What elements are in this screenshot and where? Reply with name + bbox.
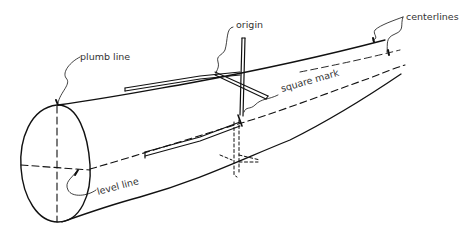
level-line-label: level line xyxy=(96,175,140,197)
plumb-line-label: plumb line xyxy=(80,51,130,62)
top-centerline xyxy=(300,50,400,72)
side-centerline xyxy=(90,65,405,169)
log-layout-diagram: plumb line origin square mark centerline… xyxy=(0,0,475,234)
side-batten xyxy=(145,115,242,158)
square-mark-leader xyxy=(244,95,278,112)
origin-label: origin xyxy=(236,19,263,30)
log-body xyxy=(58,40,401,222)
plumb-line-leader xyxy=(58,57,80,103)
centerlines-arrow-bottom-icon xyxy=(388,50,389,55)
centerlines-arrow-top-icon xyxy=(373,38,374,42)
centerlines-leader-top xyxy=(373,17,403,40)
origin-post xyxy=(240,38,245,116)
log-end-ellipse xyxy=(21,105,90,222)
square-mark-label: square mark xyxy=(280,67,341,94)
square-projection xyxy=(220,120,260,177)
centerlines-label: centerlines xyxy=(406,11,459,22)
level-line-arrow-icon xyxy=(75,170,78,175)
level-line-leader xyxy=(67,172,96,195)
origin-leader xyxy=(216,27,233,74)
top-batten xyxy=(125,72,240,91)
plumb-line-arrow-icon xyxy=(56,100,58,105)
